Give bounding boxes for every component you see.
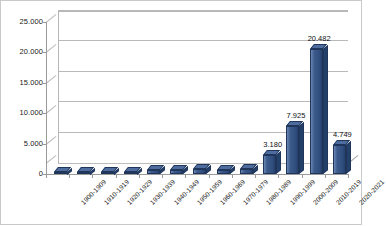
y-axis-labels: 05.00010.00015.00020.00025.000 [1,1,43,226]
y-axis-tick-label: 0 [3,170,43,178]
bar-front-face [310,49,323,174]
bar-front-face [263,155,276,174]
bar-series: 3.1807.92520.4824.749 [46,11,351,174]
bar-value-label: 3.180 [263,141,282,149]
x-axis-labels: 1900-19091910-19191920-19291930-19391940… [46,174,356,226]
bar-front-face [333,145,346,174]
bar[interactable] [333,145,346,174]
bar[interactable] [286,126,299,174]
y-axis-tick-label: 25.000 [3,18,43,26]
bar-value-label: 7.925 [287,112,306,120]
y-axis-tick-label: 20.000 [3,48,43,56]
bar-side-face [299,122,304,174]
bar-side-face [346,141,351,174]
y-axis-tick-label: 15.000 [3,79,43,87]
bar-side-face [276,151,281,174]
bar-value-label: 4.749 [333,131,352,139]
bar-front-face [286,126,299,174]
plot-area: 3.1807.92520.4824.749 [46,11,351,174]
bar-side-face [323,45,328,174]
y-axis-tick-label: 5.000 [3,140,43,148]
y-axis-tick-label: 10.000 [3,109,43,117]
bar[interactable] [310,49,323,174]
bar-value-label: 20.482 [308,35,331,43]
bar[interactable] [263,155,276,174]
